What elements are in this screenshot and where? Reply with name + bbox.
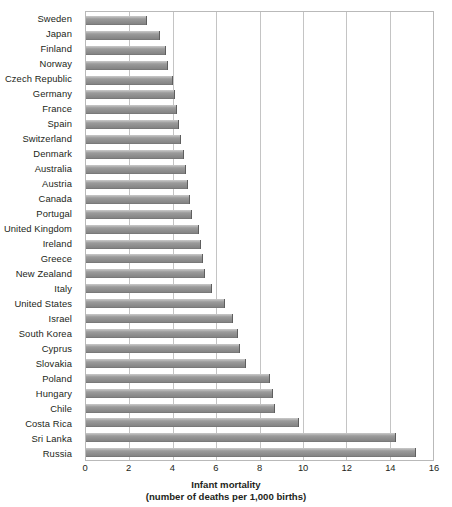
bar: [86, 76, 173, 85]
bar-row: [86, 28, 433, 43]
category-axis-labels: SwedenJapanFinlandNorwayCzech RepublicGe…: [0, 11, 78, 461]
category-label: Chile: [0, 401, 78, 416]
bar-row: [86, 341, 433, 356]
bar: [86, 46, 166, 55]
bar-row: [86, 266, 433, 281]
category-label: Spain: [0, 116, 78, 131]
bar: [86, 90, 175, 99]
x-tick-label: 4: [170, 463, 175, 472]
bar-row: [86, 177, 433, 192]
bar: [86, 120, 179, 129]
bar: [86, 269, 205, 278]
bar-row: [86, 401, 433, 416]
bar: [86, 418, 299, 427]
bar-row: [86, 445, 433, 460]
category-label: United States: [0, 296, 78, 311]
plot-area: [85, 11, 434, 461]
bar-row: [86, 237, 433, 252]
category-label: New Zealand: [0, 266, 78, 281]
bar: [86, 433, 396, 442]
category-label: Portugal: [0, 206, 78, 221]
x-tick-label: 10: [298, 463, 308, 472]
bar-row: [86, 326, 433, 341]
plot-wrapper: SwedenJapanFinlandNorwayCzech RepublicGe…: [0, 0, 452, 470]
bar-row: [86, 415, 433, 430]
bar: [86, 180, 188, 189]
bar-row: [86, 430, 433, 445]
bar-row: [86, 222, 433, 237]
category-label: Denmark: [0, 146, 78, 161]
bar: [86, 210, 192, 219]
x-tick-label: 2: [126, 463, 131, 472]
category-label: Czech Republic: [0, 71, 78, 86]
x-tick-label: 16: [429, 463, 439, 472]
bar-row: [86, 102, 433, 117]
bar: [86, 135, 181, 144]
category-label: Australia: [0, 161, 78, 176]
category-label: Russia: [0, 446, 78, 461]
bar: [86, 374, 270, 383]
category-label: Norway: [0, 56, 78, 71]
bar-row: [86, 13, 433, 28]
category-label: Sweden: [0, 11, 78, 26]
category-label: Germany: [0, 86, 78, 101]
category-label: South Korea: [0, 326, 78, 341]
category-label: Sri Lanka: [0, 431, 78, 446]
bar-row: [86, 252, 433, 267]
x-axis-tick-labels: 0246810121416: [85, 463, 434, 477]
bar: [86, 404, 275, 413]
category-label: United Kingdom: [0, 221, 78, 236]
infant-mortality-bar-chart: SwedenJapanFinlandNorwayCzech RepublicGe…: [0, 0, 452, 507]
bar: [86, 105, 177, 114]
category-label: Italy: [0, 281, 78, 296]
x-axis-title-main: Infant mortality: [0, 479, 452, 491]
category-label: Slovakia: [0, 356, 78, 371]
bar-row: [86, 162, 433, 177]
bar-row: [86, 73, 433, 88]
x-tick-label: 12: [342, 463, 352, 472]
bar-row: [86, 386, 433, 401]
bar: [86, 359, 246, 368]
category-label: Finland: [0, 41, 78, 56]
x-axis-title: Infant mortality (number of deaths per 1…: [0, 479, 452, 504]
bar: [86, 448, 416, 457]
category-label: Cyprus: [0, 341, 78, 356]
x-tick-label: 8: [257, 463, 262, 472]
bar-row: [86, 281, 433, 296]
x-axis-title-sub: (number of deaths per 1,000 births): [0, 491, 452, 503]
category-label: Ireland: [0, 236, 78, 251]
category-label: Hungary: [0, 386, 78, 401]
category-label: Canada: [0, 191, 78, 206]
bar: [86, 31, 160, 40]
bar: [86, 254, 203, 263]
bar: [86, 314, 233, 323]
x-tick-label: 6: [213, 463, 218, 472]
category-label: Switzerland: [0, 131, 78, 146]
bar: [86, 165, 186, 174]
category-label: France: [0, 101, 78, 116]
bar: [86, 240, 201, 249]
bar-row: [86, 147, 433, 162]
bar-row: [86, 58, 433, 73]
bar: [86, 225, 199, 234]
bar-row: [86, 207, 433, 222]
category-label: Greece: [0, 251, 78, 266]
bar-row: [86, 43, 433, 58]
bar-row: [86, 192, 433, 207]
bar: [86, 195, 190, 204]
bar-row: [86, 356, 433, 371]
x-tick-label: 0: [82, 463, 87, 472]
bar: [86, 150, 184, 159]
bar-series: [86, 12, 433, 460]
bar: [86, 329, 238, 338]
bar: [86, 299, 225, 308]
category-label: Costa Rica: [0, 416, 78, 431]
bar-row: [86, 88, 433, 103]
x-tick-label: 14: [385, 463, 395, 472]
category-label: Poland: [0, 371, 78, 386]
category-label: Japan: [0, 26, 78, 41]
bar-row: [86, 311, 433, 326]
bar: [86, 16, 147, 25]
bar-row: [86, 296, 433, 311]
bar: [86, 61, 168, 70]
